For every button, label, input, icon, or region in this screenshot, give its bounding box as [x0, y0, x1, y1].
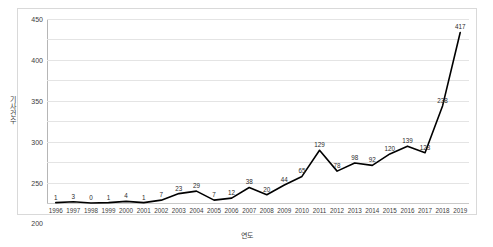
x-axis-tick-label: 2012 — [330, 207, 344, 214]
x-axis-tick-label: 2000 — [119, 207, 133, 214]
data-label: 12 — [228, 189, 235, 196]
x-axis-tick-label: 2013 — [348, 207, 362, 214]
x-axis-tick-label: 2002 — [154, 207, 168, 214]
data-label: 98 — [351, 154, 358, 161]
data-label: 129 — [314, 141, 325, 148]
x-axis-tick-label: 2008 — [260, 207, 274, 214]
x-axis-tick-label: 2004 — [189, 207, 203, 214]
y-axis-tick-label: 350 — [31, 97, 43, 104]
data-label: 23 — [175, 185, 182, 192]
x-axis-tick-label: 2018 — [436, 207, 450, 214]
x-axis-tick-label: 1997 — [66, 207, 80, 214]
x-axis-tick-label: 2009 — [277, 207, 291, 214]
data-label: 417 — [455, 23, 466, 30]
data-label: 120 — [385, 145, 396, 152]
line-chart: 기사건수 050100150200250300350400450 1301417… — [0, 0, 493, 247]
x-axis-tick-label: 2003 — [172, 207, 186, 214]
series-line — [47, 19, 469, 203]
x-axis-tick-label: 2017 — [418, 207, 432, 214]
data-label: 65 — [298, 167, 305, 174]
data-label: 20 — [263, 186, 270, 193]
y-axis-tick-label: 250 — [31, 179, 43, 186]
y-axis-tick-label: 400 — [31, 56, 43, 63]
data-label: 139 — [402, 137, 413, 144]
y-axis-tick-label: 300 — [31, 138, 43, 145]
data-label: 1 — [107, 194, 111, 201]
x-axis-tick-label: 1999 — [102, 207, 116, 214]
x-axis-tick-label: 1998 — [84, 207, 98, 214]
y-axis-tick-label: 200 — [31, 220, 43, 227]
data-label: 7 — [160, 191, 164, 198]
x-axis-tick-label: 2001 — [137, 207, 151, 214]
x-axis-tick-label: 2010 — [295, 207, 309, 214]
data-label: 44 — [281, 176, 288, 183]
data-label: 4 — [124, 192, 128, 199]
x-axis-tick-label: 2011 — [313, 207, 327, 214]
x-axis-tick-label: 2005 — [207, 207, 221, 214]
x-axis-tick-label: 2019 — [453, 207, 467, 214]
x-axis-title: 연도 — [0, 230, 493, 240]
data-label: 29 — [193, 182, 200, 189]
data-label: 78 — [334, 162, 341, 169]
data-label: 38 — [246, 178, 253, 185]
x-axis-tick-label: 2014 — [365, 207, 379, 214]
x-axis-tick-label: 2007 — [242, 207, 256, 214]
y-axis-tick-label: 450 — [31, 16, 43, 23]
y-axis-title: 기사건수 — [2, 96, 16, 124]
data-label: 123 — [420, 144, 431, 151]
data-label: 1 — [54, 194, 58, 201]
data-label: 0 — [89, 194, 93, 201]
data-label: 7 — [212, 191, 216, 198]
data-label: 1 — [142, 194, 146, 201]
data-label: 238 — [437, 97, 448, 104]
x-axis-tick-label: 1996 — [49, 207, 63, 214]
data-label: 92 — [369, 156, 376, 163]
data-label: 3 — [72, 193, 76, 200]
x-axis-tick-label: 2006 — [225, 207, 239, 214]
x-axis-tick-label: 2016 — [400, 207, 414, 214]
plot-area: 050100150200250300350400450 130141723297… — [47, 19, 469, 203]
x-axis-tick-label: 2015 — [383, 207, 397, 214]
